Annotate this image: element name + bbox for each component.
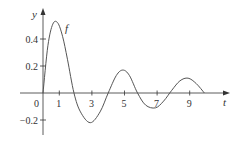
x-tick-label: 3 xyxy=(89,98,94,109)
x-axis-label: t xyxy=(223,96,227,108)
y-axis-arrow-icon xyxy=(41,8,46,15)
x-axis-arrow-icon xyxy=(223,91,230,96)
y-tick-label: 0.2 xyxy=(26,61,39,72)
x-tick-label: 5 xyxy=(122,98,127,109)
origin-label: 0 xyxy=(34,98,39,109)
y-tick-label: −0.2 xyxy=(20,115,38,126)
chart: t y 13579−0.20.20.4 0 f xyxy=(0,0,236,150)
ticks: 13579−0.20.20.4 xyxy=(20,34,192,126)
x-tick-label: 1 xyxy=(56,98,61,109)
curve-label: f xyxy=(65,22,70,34)
y-tick-label: 0.4 xyxy=(26,34,39,45)
x-tick-label: 9 xyxy=(187,98,192,109)
y-axis-label: y xyxy=(31,8,37,20)
